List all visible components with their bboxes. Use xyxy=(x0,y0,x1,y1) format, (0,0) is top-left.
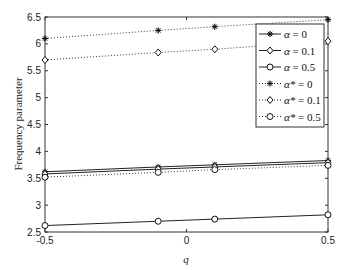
x-tick-label: 0 xyxy=(184,235,190,246)
circle-marker xyxy=(42,223,48,229)
x-tick-label: -0.5 xyxy=(36,235,54,246)
legend-label: α* = 0.1 xyxy=(284,94,321,106)
y-tick-label: 6.5 xyxy=(27,12,41,23)
legend-label: α* = 0.5 xyxy=(284,111,321,123)
line-chart: 2.533.544.555.566.5 -0.500.5 Frequency p… xyxy=(0,0,350,270)
y-tick-label: 3 xyxy=(35,200,41,211)
circle-marker xyxy=(42,174,48,180)
y-tick-label: 6 xyxy=(35,38,41,49)
y-tick-label: 4.5 xyxy=(27,119,41,130)
circle-marker xyxy=(267,114,273,120)
asterisk-marker xyxy=(212,24,218,30)
y-tick-label: 3.5 xyxy=(27,173,41,184)
legend-label: α = 0.5 xyxy=(284,61,316,73)
y-axis-label: Frequency parameter xyxy=(12,77,24,170)
circle-marker xyxy=(155,218,161,224)
x-tick-label: 0.5 xyxy=(321,235,335,246)
x-axis-label: q xyxy=(183,253,189,265)
legend-label: α = 0 xyxy=(284,28,307,40)
y-tick-label: 4 xyxy=(35,146,41,157)
circle-marker xyxy=(155,169,161,175)
asterisk-marker xyxy=(267,81,273,87)
asterisk-marker xyxy=(42,36,48,42)
asterisk-marker xyxy=(155,27,161,33)
circle-marker xyxy=(212,167,218,173)
y-tick-label: 5 xyxy=(35,92,41,103)
asterisk-marker xyxy=(325,17,331,23)
legend-label: α = 0.1 xyxy=(284,45,315,57)
y-tick-label: 5.5 xyxy=(27,65,41,76)
legend: α = 0α = 0.1α = 0.5α* = 0α* = 0.1α* = 0.… xyxy=(256,24,324,127)
circle-marker xyxy=(325,162,331,168)
legend-label: α* = 0 xyxy=(284,78,313,90)
circle-marker xyxy=(212,216,218,222)
circle-marker xyxy=(325,212,331,218)
asterisk-marker xyxy=(267,31,273,37)
circle-marker xyxy=(267,64,273,70)
